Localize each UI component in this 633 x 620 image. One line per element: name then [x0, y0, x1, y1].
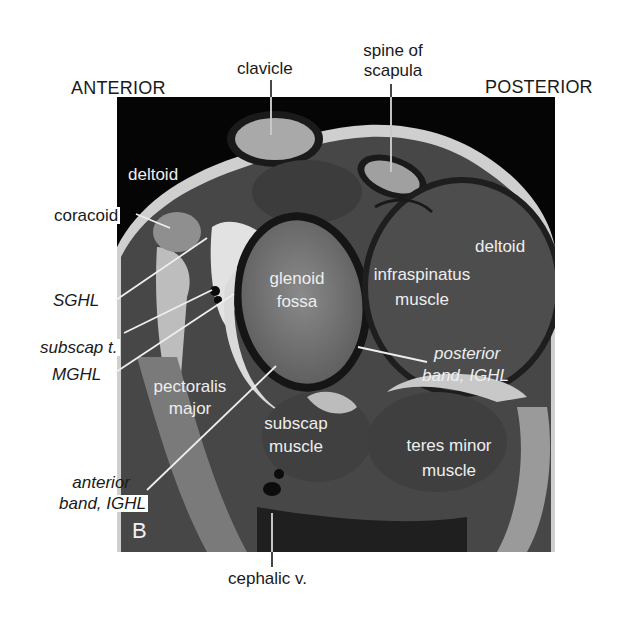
label-glenoid-line1: glenoid — [262, 270, 332, 287]
label-anterior-band-ighl: anterior band, IGHL — [44, 474, 148, 512]
label-sghl: SGHL — [53, 292, 99, 309]
label-posterior-band-line2: band, IGHL — [422, 367, 509, 384]
label-subscap-muscle: subscap muscle — [256, 415, 336, 455]
label-spine-of-scapula-line2: scapula — [355, 62, 431, 79]
label-coracoid: coracoid — [52, 207, 120, 224]
label-pectoralis-line1: pectoralis — [140, 378, 240, 395]
label-anterior-band-line1: anterior — [44, 474, 148, 491]
label-anterior-band-line2: band, IGHL — [57, 495, 148, 512]
label-subscap-tendon: subscap t. — [38, 339, 120, 356]
label-infraspinatus-line2: muscle — [363, 291, 481, 308]
orientation-posterior-label: POSTERIOR — [485, 78, 593, 96]
label-infraspinatus-line1: infraspinatus — [363, 266, 481, 283]
label-teres-line1: teres minor — [393, 437, 505, 454]
label-subscap-line1: subscap — [256, 415, 336, 432]
label-pectoralis-line2: major — [140, 400, 240, 417]
label-clavicle: clavicle — [237, 60, 293, 77]
label-cephalic-vein: cephalic v. — [228, 570, 307, 587]
mri-illustration — [117, 97, 555, 552]
label-teres-minor-muscle: teres minor muscle — [393, 437, 505, 479]
label-spine-of-scapula-line1: spine of — [355, 42, 431, 59]
label-pectoralis-major: pectoralis major — [140, 378, 240, 417]
label-glenoid-fossa: glenoid fossa — [262, 270, 332, 310]
label-mghl: MGHL — [52, 366, 101, 383]
orientation-anterior-label: ANTERIOR — [71, 79, 166, 97]
mri-axial-shoulder-image — [117, 97, 555, 552]
figure-canvas: ANTERIOR POSTERIOR clavicle spine of sca… — [0, 0, 633, 620]
panel-letter: B — [132, 518, 147, 544]
label-posterior-band-ighl: posterior band, IGHL — [422, 345, 509, 384]
label-posterior-band-line1: posterior — [422, 345, 509, 362]
label-spine-of-scapula: spine of scapula — [355, 42, 431, 79]
label-deltoid-posterior: deltoid — [475, 238, 525, 255]
label-teres-line2: muscle — [393, 462, 505, 479]
label-subscap-line2: muscle — [256, 438, 336, 455]
label-glenoid-line2: fossa — [262, 293, 332, 310]
label-infraspinatus-muscle: infraspinatus muscle — [363, 266, 481, 308]
label-deltoid-anterior: deltoid — [128, 166, 178, 183]
